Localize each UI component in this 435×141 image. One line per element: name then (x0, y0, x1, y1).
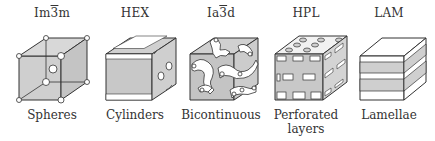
bicontinuous-cube-icon (178, 34, 264, 104)
symmetry-label-ia3d: Ia3d (178, 6, 264, 20)
perforated-layers-cube-icon (263, 34, 349, 104)
morphology-name-line2: layers (263, 122, 349, 136)
morphology-name-lamellae: Lamellae (346, 108, 432, 122)
symmetry-label-hex: HEX (92, 6, 178, 20)
panel-cylinders: HEX Cylinders (92, 0, 178, 141)
lamellae-cube-icon (346, 34, 432, 104)
cylinders-cube-icon (92, 34, 178, 104)
panel-bicontinuous: Ia3d Bicontinuous (178, 0, 264, 141)
panel-perforated-layers: HPL (263, 0, 349, 141)
symmetry-label-lam: LAM (346, 6, 432, 20)
morphology-name-spheres: Spheres (9, 108, 95, 122)
panel-spheres: Im3m Spheres (9, 0, 95, 141)
symmetry-label-im3m: Im3m (9, 6, 95, 20)
symmetry-label-hpl: HPL (263, 6, 349, 20)
morphology-name-line1: Perforated (263, 108, 349, 122)
morphology-name-cylinders: Cylinders (92, 108, 178, 122)
morphology-name-perforated-layers: Perforated layers (263, 108, 349, 136)
spheres-cube-icon (9, 34, 95, 104)
morphology-name-bicontinuous: Bicontinuous (178, 108, 264, 122)
panel-lamellae: LAM Lamellae (346, 0, 432, 141)
